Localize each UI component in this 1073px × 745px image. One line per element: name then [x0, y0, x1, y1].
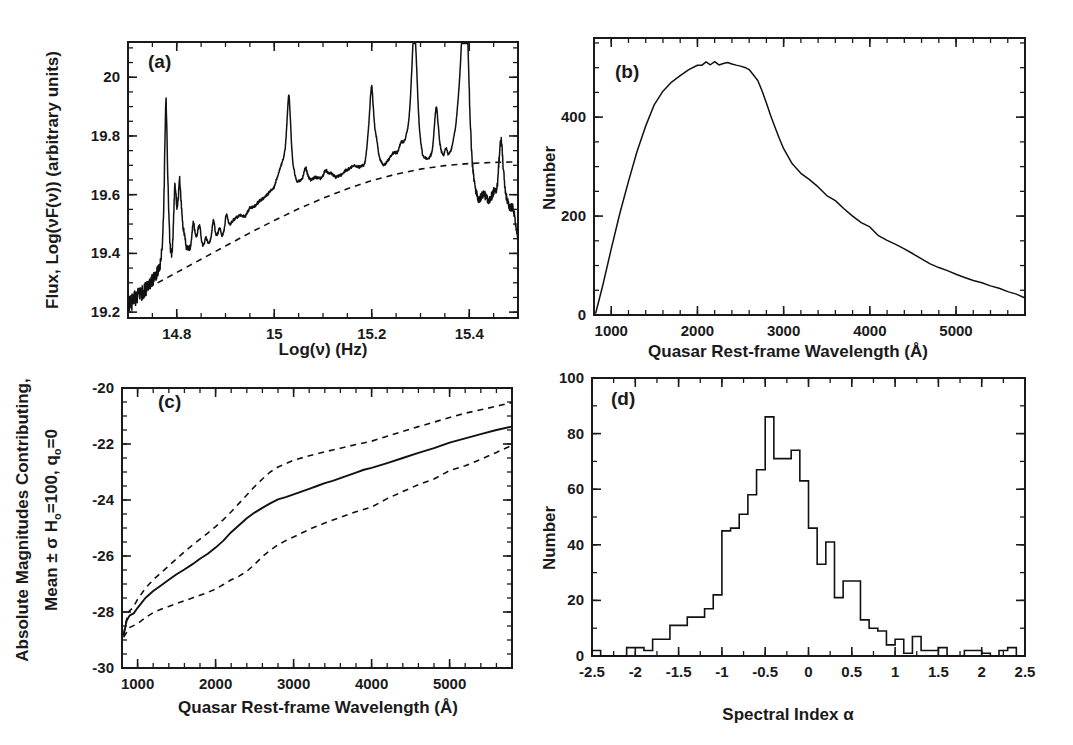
- panel-d-label: (d): [611, 388, 635, 409]
- x-tick-label: 2: [978, 663, 986, 680]
- panel-c-ylabel-seg2: =100, q: [42, 455, 61, 513]
- plot-frame: [122, 388, 512, 668]
- x-tick-label: -2: [629, 663, 642, 680]
- panel-b: 100020003000400050000200400 (b) Quasar R…: [533, 0, 1073, 372]
- x-tick-label: 5000: [433, 675, 466, 692]
- x-tick-label: 2000: [199, 675, 232, 692]
- y-tick-label: -28: [92, 603, 114, 620]
- panel-a-xlabel: Log(ν) (Hz): [279, 340, 368, 359]
- x-tick-label: -0.5: [752, 663, 778, 680]
- panel-b-number-curve: [596, 62, 1025, 313]
- panel-d-plot: -2.5-2-1.5-1-0.500.511.522.5020406080100…: [533, 370, 1073, 745]
- x-tick-label: 3000: [767, 322, 800, 339]
- panel-c-ylabel-line2: Mean ± σ Ho=100, qo=0: [42, 429, 63, 611]
- x-tick-label: 4000: [853, 322, 886, 339]
- y-tick-label: 100: [559, 369, 584, 386]
- x-tick-label: 15.4: [455, 325, 485, 342]
- y-tick-label: 400: [561, 108, 586, 125]
- panel-c-ylabel-seg1: Mean ± σ H: [42, 520, 61, 611]
- panel-b-label: (b): [615, 61, 639, 82]
- x-tick-label: -1.5: [666, 663, 692, 680]
- y-tick-label: 0: [578, 306, 586, 323]
- x-tick-label: 5000: [939, 322, 972, 339]
- y-tick-label: 19.8: [91, 127, 120, 144]
- y-tick-label: 0: [576, 647, 584, 664]
- x-tick-label: 1000: [595, 322, 628, 339]
- panel-b-plot: 100020003000400050000200400 (b) Quasar R…: [533, 0, 1073, 372]
- y-tick-label: 19.6: [91, 186, 120, 203]
- panel-d-xlabel: Spectral Index α: [722, 705, 854, 724]
- x-tick-label: 2000: [681, 322, 714, 339]
- x-tick-label: -1: [715, 663, 728, 680]
- panel-d-ylabel: Number: [540, 506, 559, 571]
- panel-c-ylabel-line1: Absolute Magnitudes Contributing,: [13, 378, 32, 661]
- y-tick-label: 20: [103, 68, 120, 85]
- x-tick-label: 1000: [121, 675, 154, 692]
- panel-c-upper-sigma-curve: [124, 445, 512, 637]
- panel-c-plot: 10002000300040005000-30-28-26-24-22-20 (…: [0, 370, 540, 745]
- y-tick-label: 40: [567, 536, 584, 553]
- panel-c-ylabel-seg3: =0: [42, 429, 61, 448]
- y-tick-label: -22: [92, 435, 114, 452]
- panel-a-continuum-curve: [128, 162, 518, 298]
- y-tick-label: -24: [92, 491, 114, 508]
- x-tick-label: 1.5: [928, 663, 949, 680]
- y-tick-label: 200: [561, 207, 586, 224]
- plot-frame: [594, 38, 1025, 315]
- panel-a-ylabel: Flux, Log(νF(ν)) (arbitrary units): [43, 51, 62, 309]
- panel-c-lower-sigma-curve: [124, 403, 512, 635]
- y-tick-label: 60: [567, 480, 584, 497]
- y-tick-label: -30: [92, 659, 114, 676]
- y-tick-label: 20: [567, 591, 584, 608]
- panel-d: -2.5-2-1.5-1-0.500.511.522.5020406080100…: [533, 370, 1073, 745]
- panel-c: 10002000300040005000-30-28-26-24-22-20 (…: [0, 370, 540, 745]
- y-tick-label: 19.4: [91, 244, 121, 261]
- x-tick-label: 0.5: [841, 663, 862, 680]
- x-tick-label: 3000: [277, 675, 310, 692]
- panel-c-mean-curve: [124, 427, 512, 636]
- x-tick-label: 2.5: [1015, 663, 1036, 680]
- panel-d-histogram: [592, 417, 1025, 656]
- x-tick-label: 14.8: [162, 325, 191, 342]
- panel-c-label: (c): [158, 391, 181, 412]
- x-tick-label: 4000: [355, 675, 388, 692]
- y-tick-label: 80: [567, 425, 584, 442]
- panel-a: 14.81515.215.419.219.419.619.820 (a) Log…: [0, 0, 540, 372]
- panel-a-label: (a): [148, 51, 171, 72]
- panel-a-plot: 14.81515.215.419.219.419.619.820 (a) Log…: [0, 0, 540, 372]
- panel-c-xlabel: Quasar Rest-frame Wavelength (Å): [178, 698, 458, 717]
- x-tick-label: 0: [804, 663, 812, 680]
- y-tick-label: 19.2: [91, 303, 120, 320]
- panel-b-ylabel: Number: [540, 146, 559, 211]
- x-tick-label: -2.5: [579, 663, 605, 680]
- y-tick-label: -20: [92, 379, 114, 396]
- panel-b-xlabel: Quasar Rest-frame Wavelength (Å): [648, 342, 928, 361]
- figure-container: 14.81515.215.419.219.419.619.820 (a) Log…: [0, 0, 1073, 745]
- x-tick-label: 1: [891, 663, 899, 680]
- panel-a-spectrum-curve: [128, 43, 518, 311]
- y-tick-label: -26: [92, 547, 114, 564]
